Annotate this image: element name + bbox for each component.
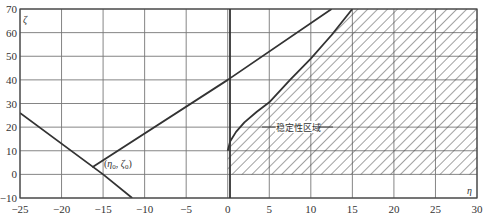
x-tick-label: 5	[267, 203, 273, 215]
point-label: (η0, ζ0)	[104, 158, 132, 171]
x-tick-label: 25	[430, 203, 442, 215]
x-tick-label: −25	[11, 203, 29, 215]
y-axis-label: ζ	[23, 14, 28, 26]
y-tick-label: −10	[0, 192, 17, 204]
y-tick-label: 20	[6, 121, 18, 133]
x-tick-labels: −25−20−15−10−5051015202530	[11, 203, 483, 215]
x-tick-label: 0	[225, 203, 231, 215]
y-tick-label: 50	[6, 50, 18, 62]
stability-chart: −25−20−15−10−5051015202530 −100102030405…	[0, 0, 495, 223]
y-tick-labels: −10010203040506070	[0, 3, 18, 204]
descending-line	[20, 113, 132, 198]
x-tick-label: 10	[305, 203, 317, 215]
x-tick-label: −15	[94, 203, 112, 215]
y-tick-label: 70	[6, 3, 18, 15]
y-tick-label: 0	[12, 168, 18, 180]
y-tick-label: 40	[6, 74, 18, 86]
x-tick-label: −10	[136, 203, 154, 215]
x-tick-label: −5	[180, 203, 192, 215]
y-tick-label: 60	[6, 27, 18, 39]
x-tick-label: 30	[472, 203, 484, 215]
x-tick-label: 15	[347, 203, 359, 215]
x-tick-label: −20	[53, 203, 71, 215]
stability-region-label: 稳定性区域	[276, 122, 321, 133]
stability-region-hatch	[228, 9, 477, 174]
y-tick-label: 30	[6, 98, 18, 110]
x-axis-label: η	[467, 185, 472, 196]
x-tick-label: 20	[388, 203, 400, 215]
y-tick-label: 10	[6, 145, 18, 157]
